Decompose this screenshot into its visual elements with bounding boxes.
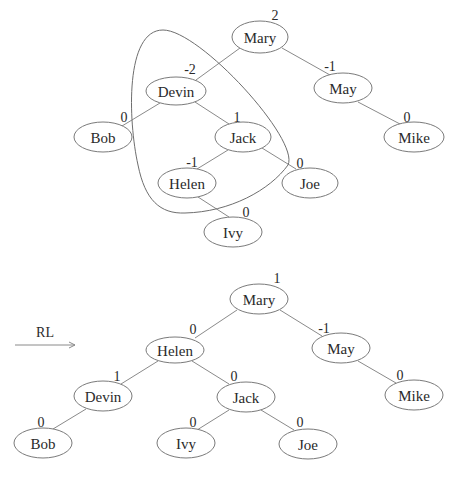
balance-factor-label: 0 — [397, 368, 404, 383]
edge-jack-ivy — [197, 410, 229, 430]
tree-node-mary: Mary1 — [230, 271, 288, 314]
balance-factor-label: 0 — [231, 369, 238, 384]
balance-factor-label: 0 — [190, 415, 197, 430]
edge-may-mike — [358, 102, 400, 124]
edge-jack-helen — [197, 150, 228, 169]
edge-may-mike — [358, 361, 396, 383]
nodes-before: Mary2Devin-2May-1Bob0Jack1Mike0Helen-1Jo… — [74, 8, 444, 247]
tree-node-bob: Bob0 — [74, 110, 132, 152]
node-label: Mary — [244, 30, 277, 46]
rotation-transition: RL — [15, 325, 75, 348]
balance-factor-label: 1 — [274, 271, 281, 286]
tree-after-rotation: Mary1Helen0May-1Devin1Jack0Mike0Bob0Ivy0… — [14, 271, 443, 459]
tree-node-devin: Devin1 — [74, 369, 132, 411]
tree-node-joe: Joe0 — [282, 156, 338, 198]
node-label: Devin — [158, 84, 195, 100]
balance-factor-label: 0 — [38, 415, 45, 430]
node-label: Helen — [169, 176, 205, 192]
nodes-after: Mary1Helen0May-1Devin1Jack0Mike0Bob0Ivy0… — [14, 271, 443, 459]
node-label: Ivy — [223, 225, 243, 241]
edge-helen-jack — [192, 361, 229, 384]
edge-devin-bob — [122, 103, 160, 126]
node-label: Jack — [233, 390, 260, 406]
balance-factor-label: 0 — [121, 110, 128, 125]
tree-node-helen: Helen0 — [146, 322, 204, 363]
node-label: Joe — [298, 437, 318, 453]
edge-devin-bob — [53, 409, 86, 429]
tree-node-may: May-1 — [312, 321, 370, 363]
tree-node-devin: Devin-2 — [146, 62, 206, 105]
edge-mary-devin — [196, 48, 240, 80]
edge-helen-devin — [121, 361, 158, 384]
tree-node-ivy: Ivy0 — [157, 415, 215, 458]
node-label: May — [329, 81, 357, 97]
node-label: Mike — [398, 388, 430, 404]
edge-mary-helen — [195, 310, 237, 338]
edge-mary-may — [280, 310, 322, 336]
tree-node-ivy: Ivy0 — [204, 205, 262, 247]
tree-node-mike: Mike0 — [384, 110, 444, 152]
tree-before-rotation: Mary2Devin-2May-1Bob0Jack1Mike0Helen-1Jo… — [74, 8, 444, 247]
rotation-type-label: RL — [36, 325, 54, 340]
tree-node-may: May-1 — [314, 59, 372, 103]
node-label: Mike — [398, 130, 430, 146]
balance-factor-label: -1 — [324, 59, 336, 74]
edges-after — [53, 310, 396, 430]
tree-node-mary: Mary2 — [232, 8, 288, 53]
balance-factor-label: 0 — [243, 205, 250, 220]
node-label: Jack — [230, 130, 257, 146]
edge-jack-joe — [262, 148, 296, 169]
balance-factor-label: 1 — [114, 369, 121, 384]
balance-factor-label: 1 — [234, 110, 241, 125]
balance-factor-label: -1 — [318, 321, 330, 336]
balance-factor-label: 0 — [297, 415, 304, 430]
balance-factor-label: -2 — [184, 62, 196, 77]
node-label: Helen — [157, 343, 193, 359]
node-label: Joe — [300, 176, 320, 192]
balance-factor-label: -1 — [186, 155, 198, 170]
tree-node-bob: Bob0 — [14, 415, 72, 458]
avl-rotation-diagram: Mary2Devin-2May-1Bob0Jack1Mike0Helen-1Jo… — [0, 0, 464, 482]
balance-factor-label: 0 — [297, 156, 304, 171]
balance-factor-label: 0 — [404, 110, 411, 125]
edge-jack-joe — [261, 410, 294, 430]
tree-node-joe: Joe0 — [279, 415, 337, 459]
tree-node-jack: Jack0 — [217, 369, 275, 412]
edge-devin-jack — [195, 102, 229, 124]
tree-node-jack: Jack1 — [215, 110, 271, 152]
edge-mary-may — [282, 48, 330, 75]
balance-factor-label: 2 — [272, 8, 279, 23]
tree-node-mike: Mike0 — [385, 368, 443, 410]
node-label: Bob — [90, 130, 115, 146]
node-label: Ivy — [176, 436, 196, 452]
node-label: May — [327, 341, 355, 357]
node-label: Mary — [243, 292, 276, 308]
balance-factor-label: 0 — [190, 322, 197, 337]
node-label: Bob — [30, 436, 55, 452]
tree-node-helen: Helen-1 — [158, 155, 216, 198]
node-label: Devin — [85, 389, 122, 405]
